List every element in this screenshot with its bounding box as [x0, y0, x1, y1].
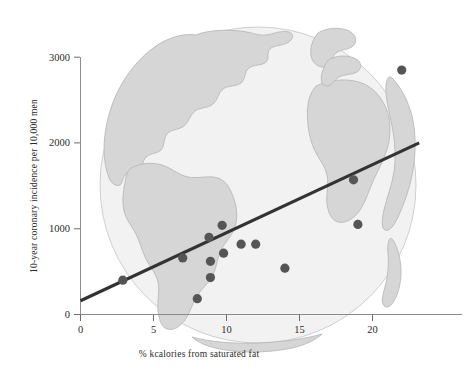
data-point: [206, 273, 215, 282]
data-point: [353, 220, 362, 229]
x-tick-label-20: 20: [367, 324, 378, 335]
y-axis-title: 10-year coronary incidence per 10,000 me…: [29, 99, 39, 273]
data-point: [349, 175, 358, 184]
data-point: [118, 276, 127, 285]
data-point: [251, 240, 260, 249]
y-axis-ticks: [74, 57, 80, 314]
globe-decoration: [100, 27, 416, 352]
y-tick-label-1000: 1000: [49, 223, 70, 234]
data-point: [204, 233, 213, 242]
x-axis-tick-labels: 0 5 10 15 20: [78, 324, 378, 335]
x-axis-title: % kcalories from saturated fat: [139, 349, 260, 359]
y-axis-tick-labels: 0 1000 2000 3000: [49, 52, 70, 320]
data-point: [206, 257, 215, 266]
y-tick-label-3000: 3000: [49, 52, 70, 63]
chart-svg: 0 1000 2000 3000 0 5 10 15 20 % kc: [0, 0, 475, 377]
data-point: [193, 294, 202, 303]
data-point: [280, 264, 289, 273]
data-point: [218, 221, 227, 230]
y-tick-label-0: 0: [65, 309, 70, 320]
x-tick-label-0: 0: [78, 324, 83, 335]
x-tick-label-5: 5: [151, 324, 156, 335]
x-tick-label-15: 15: [294, 324, 305, 335]
scatter-plot-figure: 0 1000 2000 3000 0 5 10 15 20 % kc: [0, 0, 475, 377]
data-point: [178, 253, 187, 262]
data-point: [397, 65, 406, 74]
data-point: [219, 249, 228, 258]
y-tick-label-2000: 2000: [49, 137, 70, 148]
data-point: [237, 240, 246, 249]
x-tick-label-10: 10: [221, 324, 232, 335]
